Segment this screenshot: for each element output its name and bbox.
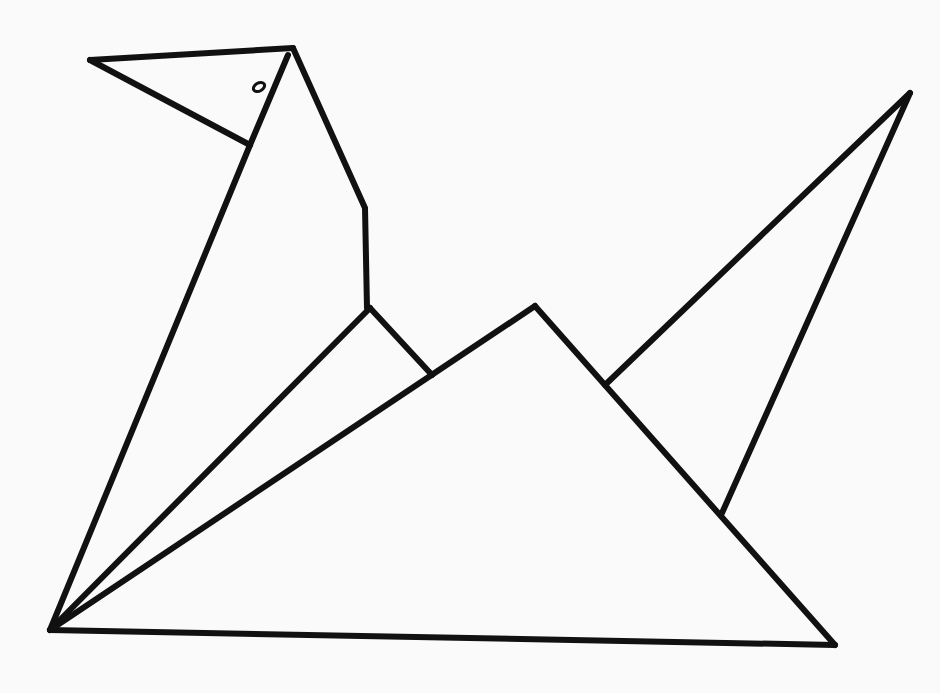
inner-fold-2-line (50, 306, 535, 630)
origami-bird-svg (0, 0, 940, 693)
beak-top-line (90, 48, 293, 60)
base-line (50, 630, 835, 645)
back-of-neck-line (293, 48, 367, 308)
front-body-edge-line (50, 145, 250, 630)
neck-fold-line (370, 308, 432, 375)
bird-eye-icon (252, 81, 266, 94)
inner-fold-1-line (50, 308, 370, 630)
origami-bird-drawing (0, 0, 940, 693)
beak-bottom-line (90, 60, 250, 145)
head-front-line (250, 55, 288, 145)
tail-lower-line (722, 93, 910, 513)
tail-upper-line (605, 93, 910, 385)
